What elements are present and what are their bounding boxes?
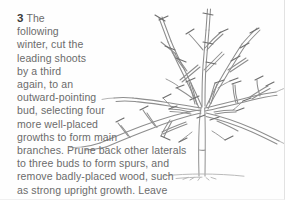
text-line-7: outward-pointing xyxy=(17,91,217,104)
text-line-14: as strong upright growth. Leave xyxy=(17,184,217,197)
text-line-12: to three buds to form spurs, and xyxy=(17,157,217,170)
step-number: 3 xyxy=(17,12,23,24)
text-line-8: bud, selecting four xyxy=(17,104,217,117)
text-line-5: by a third xyxy=(17,65,217,78)
text-line-13: remove badly-placed wood, such xyxy=(17,170,217,183)
text-line-2: following xyxy=(17,25,217,38)
text-line-10: growths to form main xyxy=(17,131,217,144)
text-line-11: branches. Prune back other laterals xyxy=(17,144,217,157)
instruction-paragraph: 3The following winter, cut the leading s… xyxy=(17,12,217,200)
instruction-text: 3The following winter, cut the leading s… xyxy=(17,12,217,200)
text-line-9: more well-placed xyxy=(17,118,217,131)
illustration-panel: 3The following winter, cut the leading s… xyxy=(0,0,285,200)
text-line-3: winter, cut the xyxy=(17,38,217,51)
text-line-15: some outside laterals unpruned. xyxy=(17,197,217,200)
text-line-1: The xyxy=(26,12,44,24)
text-line-6: again, to an xyxy=(17,78,217,91)
text-line-4: leading shoots xyxy=(17,52,217,65)
